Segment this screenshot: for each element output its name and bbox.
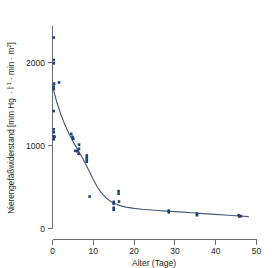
data-point	[117, 192, 120, 195]
data-point	[118, 200, 121, 203]
data-point	[112, 202, 115, 205]
y-axis-title-main: Nierengefäßwiderstand [mm Hg	[7, 98, 16, 214]
x-tick-label-20: 20	[129, 246, 139, 256]
data-point	[52, 36, 55, 39]
data-point	[112, 209, 115, 212]
data-point	[88, 195, 91, 198]
x-tick-label-30: 30	[170, 246, 180, 256]
data-point	[52, 128, 55, 131]
data-point	[76, 150, 79, 153]
data-point	[52, 85, 55, 88]
data-point-group	[52, 36, 242, 217]
x-tick-label-0: 0	[50, 246, 55, 256]
data-point	[85, 160, 88, 163]
x-tick-label-50: 50	[252, 246, 262, 256]
svg-text:Nierengefäßwiderstand [mm Hg ·: Nierengefäßwiderstand [mm Hg · l-1 · min…	[6, 42, 16, 214]
x-tick-label-10: 10	[89, 246, 99, 256]
regression-curve	[54, 91, 249, 217]
data-point	[77, 153, 80, 156]
data-point	[196, 214, 199, 217]
x-axis-ticks: 0 10 20 30 40 50	[50, 240, 261, 257]
y-axis-title-unit2: min	[7, 61, 16, 75]
data-point	[70, 133, 73, 136]
y-tick-label-1000: 1000	[26, 141, 45, 151]
data-point	[52, 110, 55, 113]
scatter-plot: 0 1000 2000 0 10 20 30 40 50 Alter (Tage…	[0, 0, 273, 268]
data-point	[78, 148, 81, 151]
data-point	[58, 81, 61, 84]
data-point	[52, 59, 55, 62]
y-axis-ticks: 0 1000 2000	[26, 58, 52, 234]
y-tick-label-0: 0	[40, 224, 45, 234]
data-point	[240, 215, 243, 218]
data-point	[78, 143, 81, 146]
data-point	[52, 62, 55, 65]
chart-figure: 0 1000 2000 0 10 20 30 40 50 Alter (Tage…	[0, 0, 273, 268]
y-axis-title: Nierengefäßwiderstand [mm Hg · l-1 · min…	[6, 42, 16, 214]
data-point	[72, 138, 75, 141]
data-point	[117, 190, 120, 193]
data-point	[52, 88, 55, 91]
data-point	[53, 82, 56, 85]
data-point	[52, 138, 55, 141]
data-point	[52, 131, 55, 134]
y-axis-title-close: ]	[7, 42, 16, 44]
data-point	[53, 135, 56, 138]
x-tick-label-40: 40	[211, 246, 221, 256]
data-point	[167, 211, 170, 214]
x-axis-title: Alter (Tage)	[132, 258, 176, 268]
y-tick-label-2000: 2000	[26, 58, 45, 68]
